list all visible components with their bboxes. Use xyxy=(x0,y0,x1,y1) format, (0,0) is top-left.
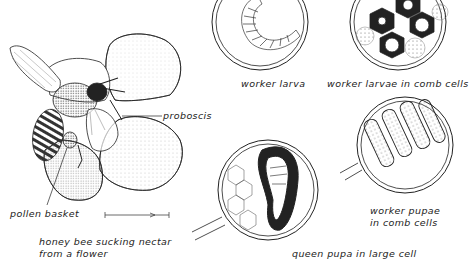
label-queen-pupa: queen pupa in large cell xyxy=(292,248,417,260)
worker-larvae-comb-magnifier xyxy=(350,0,448,70)
caption-line-2: from a flower xyxy=(39,248,108,260)
worker-pupae-comb-magnifier xyxy=(340,97,453,193)
label-worker-larva: worker larva xyxy=(241,78,305,90)
worker-larva-magnifier xyxy=(212,0,308,70)
scale-bar xyxy=(105,212,169,218)
flower-icon xyxy=(44,34,182,200)
queen-pupa-magnifier xyxy=(192,140,318,240)
label-pollen-basket: pollen basket xyxy=(10,208,79,220)
label-worker-larvae-comb: worker larvae in comb cells xyxy=(327,78,469,90)
label-worker-pupae-2: in comb cells xyxy=(370,217,438,229)
label-proboscis: proboscis xyxy=(163,110,212,122)
label-worker-pupae-1: worker pupae xyxy=(370,205,440,217)
caption-line-1: honey bee sucking nectar xyxy=(39,236,172,248)
